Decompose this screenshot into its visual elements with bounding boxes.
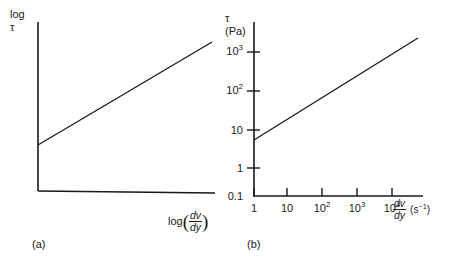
panel-a-x-label-numerator: dv: [189, 210, 202, 222]
panel-a-caption: (a): [32, 238, 45, 250]
panel-b-x-ticklabel-1000: 103: [342, 202, 372, 214]
panel-a: log τ log ( dv dy ) (a): [0, 0, 235, 264]
panel-b-y-axis-symbol: τ: [225, 12, 246, 25]
panel-a-x-axis-label: log ( dv dy ): [168, 210, 208, 232]
panel-a-x-label-paren-close: ): [202, 211, 208, 230]
panel-b-y-ticklabel-100: 102: [209, 84, 243, 96]
figure-container: log τ log ( dv dy ) (a): [0, 0, 470, 264]
panel-b-y-ticklabel-1: 1: [209, 162, 243, 174]
panel-b-caption: (b): [247, 238, 260, 250]
panel-b-x-label-denominator: dy: [393, 210, 406, 221]
panel-b-plot: [215, 0, 470, 264]
panel-a-x-axis: [38, 191, 215, 193]
panel-b-y-axis-label: τ (Pa): [225, 12, 246, 38]
panel-a-y-axis-label: log τ: [10, 8, 25, 33]
panel-b-x-label-numerator: dv: [393, 198, 406, 210]
panel-b-y-ticklabel-10: 10: [209, 124, 243, 136]
panel-a-x-label-denominator: dy: [189, 222, 202, 233]
panel-b-x-label-fraction: dv dy: [393, 198, 406, 220]
panel-b-x-axis-label: dv dy (s−1): [393, 198, 430, 220]
panel-b-y-ticklabel-0.1: 0.1: [209, 190, 243, 202]
panel-b-x-ticklabel-1: 1: [239, 202, 269, 214]
panel-a-y-axis-label-log: log: [10, 8, 25, 21]
panel-b: τ (Pa) 103 102 10 1 0.1 1 10 102 103: [215, 0, 470, 264]
panel-b-x-ticklabel-10: 10: [272, 202, 302, 214]
panel-b-y-ticklabel-1000: 103: [209, 45, 243, 57]
panel-a-x-label-fraction: dv dy: [189, 210, 202, 232]
panel-b-x-ticklabel-100: 102: [307, 202, 337, 214]
panel-a-x-label-paren-open: (: [183, 211, 189, 230]
panel-b-y-axis-units: (Pa): [225, 25, 246, 38]
panel-b-data-line: [254, 38, 418, 140]
panel-a-data-line: [38, 42, 212, 145]
panel-a-x-label-log: log: [168, 215, 183, 227]
panel-a-y-axis-label-tau: τ: [10, 21, 25, 34]
panel-b-x-axis-units: (s−1): [410, 204, 430, 215]
